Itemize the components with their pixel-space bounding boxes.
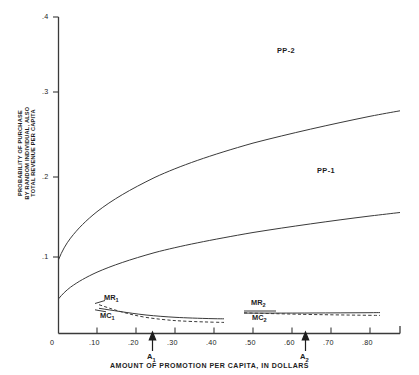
series-curve-pp2: [59, 111, 401, 260]
series-label-mr2-subscript: 2: [263, 302, 266, 308]
x-axis-ticks: [97, 328, 370, 334]
series-label-mc2-subscript: 2: [264, 317, 267, 323]
series-label-mr1: MR1: [104, 293, 119, 303]
arrow-label-a2: A2: [300, 352, 309, 363]
series-label-pp2: PP-2: [277, 46, 295, 55]
y-tick-label-0.4: .4: [42, 12, 48, 21]
y-tick-label-0.1: .1: [42, 252, 48, 261]
series-label-pp1: PP-1: [317, 166, 335, 175]
y-axis-title-line-2: BY RANDOM INDIVIDUAL, ALSO: [24, 78, 31, 228]
series-curve-pp1: [59, 213, 401, 299]
series-curve-mc1: [99, 308, 224, 319]
chart-figure: .4 .3 .2 .1 0 .10 .20 .30 .40 .50 .60 .7…: [0, 0, 419, 375]
x-tick-label-0: 0: [50, 338, 54, 347]
y-axis-title-line-3: TOTAL REVENUE PER CAPITA: [30, 78, 37, 228]
series-label-mr1-subscript: 1: [116, 297, 119, 303]
x-tick-label-0.40: .40: [206, 338, 217, 347]
x-tick-label-0.80: .80: [362, 338, 373, 347]
series-curve-mr1: [99, 305, 224, 323]
y-axis-title: PROBABILITY OF PURCHASE BY RANDOM INDIVI…: [17, 0, 37, 78]
x-tick-label-0.20: .20: [128, 338, 139, 347]
series-label-mc1: MC1: [100, 311, 115, 321]
series-label-mc2-text: MC: [252, 313, 264, 322]
y-axis-ticks: [53, 17, 59, 257]
x-axis-title: AMOUNT OF PROMOTION PER CAPITA, IN DOLLA…: [0, 362, 419, 369]
arrow-a1: [149, 332, 155, 351]
series-label-mc1-text: MC: [100, 311, 112, 320]
series-label-mr2-text: MR: [251, 298, 263, 307]
x-tick-label-0.30: .30: [167, 338, 178, 347]
chart-plot-area: [0, 0, 419, 375]
y-axis-title-line-1: PROBABILITY OF PURCHASE: [17, 78, 24, 228]
x-tick-label-0.50: .50: [245, 338, 256, 347]
x-tick-label-0.10: .10: [89, 338, 100, 347]
arrow-label-a1: A1: [147, 352, 156, 363]
series-label-mc1-subscript: 1: [112, 315, 115, 321]
series-label-mc2: MC2: [252, 313, 267, 323]
x-tick-label-0.60: .60: [284, 338, 295, 347]
arrow-a2: [302, 332, 308, 351]
y-tick-label-0.2: .2: [42, 172, 48, 181]
y-tick-label-0.3: .3: [42, 87, 48, 96]
x-tick-label-0.70: .70: [323, 338, 334, 347]
series-label-mr2: MR2: [251, 298, 266, 308]
series-label-mr1-text: MR: [104, 293, 116, 302]
